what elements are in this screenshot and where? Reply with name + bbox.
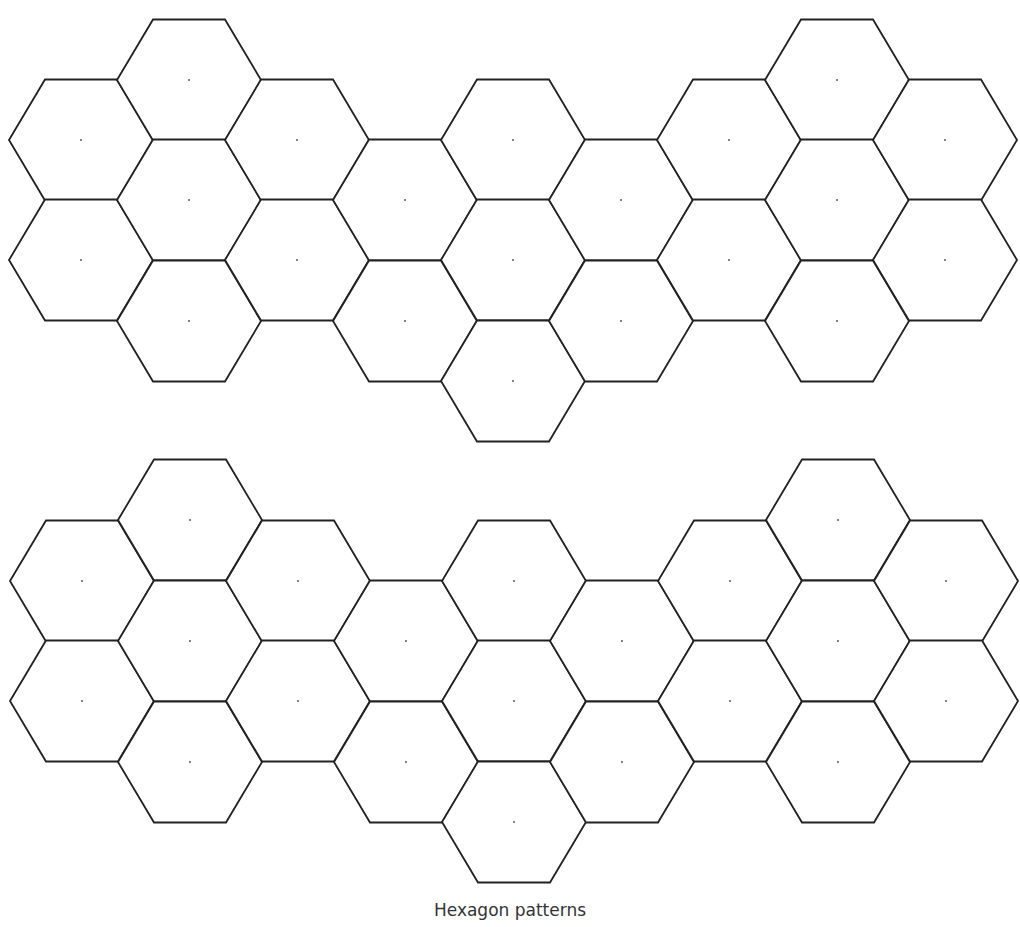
- hexagon-center-dot: [404, 199, 406, 201]
- hexagon-center-dot: [80, 259, 82, 261]
- bottom-hexagon-pattern: [10, 460, 1018, 883]
- hexagon-center-dot: [513, 700, 515, 702]
- hexagon-center-dot: [621, 761, 623, 763]
- hexagon-center-dot: [945, 700, 947, 702]
- hexagon-center-dot: [81, 580, 83, 582]
- hexagon-center-dot: [405, 640, 407, 642]
- hexagon-center-dot: [837, 640, 839, 642]
- hexagon-center-dot: [728, 259, 730, 261]
- hexagon-center-dot: [512, 259, 514, 261]
- hexagon-diagram: [0, 0, 1020, 927]
- hexagon-center-dot: [837, 519, 839, 521]
- hexagon-center-dot: [405, 761, 407, 763]
- hexagon-center-dot: [188, 199, 190, 201]
- hexagon-center-dot: [621, 640, 623, 642]
- hexagon-center-dot: [296, 259, 298, 261]
- hexagon-center-dot: [189, 519, 191, 521]
- hexagon-center-dot: [512, 139, 514, 141]
- hexagon-center-dot: [189, 761, 191, 763]
- hexagon-center-dot: [404, 320, 406, 322]
- top-hexagon-pattern: [9, 20, 1017, 442]
- hexagon-center-dot: [188, 79, 190, 81]
- hexagon-center-dot: [836, 79, 838, 81]
- hexagon-center-dot: [296, 139, 298, 141]
- hexagon-center-dot: [81, 700, 83, 702]
- hexagon-center-dot: [945, 580, 947, 582]
- hexagon-center-dot: [80, 139, 82, 141]
- hexagon-center-dot: [513, 580, 515, 582]
- hexagon-center-dot: [513, 821, 515, 823]
- hexagon-center-dot: [837, 761, 839, 763]
- hexagon-center-dot: [729, 580, 731, 582]
- hexagon-center-dot: [944, 139, 946, 141]
- hexagon-center-dot: [297, 700, 299, 702]
- hexagon-center-dot: [836, 199, 838, 201]
- hexagon-center-dot: [944, 259, 946, 261]
- hexagon-center-dot: [729, 700, 731, 702]
- hexagon-center-dot: [620, 199, 622, 201]
- hexagon-center-dot: [188, 320, 190, 322]
- hexagon-center-dot: [189, 640, 191, 642]
- hexagon-center-dot: [728, 139, 730, 141]
- figure-caption: Hexagon patterns: [0, 900, 1020, 920]
- hexagon-center-dot: [512, 380, 514, 382]
- hexagon-center-dot: [836, 320, 838, 322]
- hexagon-center-dot: [297, 580, 299, 582]
- hexagon-center-dot: [620, 320, 622, 322]
